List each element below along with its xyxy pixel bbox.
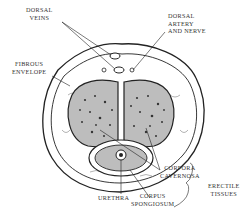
label-erectile-tissues: ERECTILE TISSUES (208, 182, 240, 197)
label-corpora-cavernosa: CORPORA CAVERNOSA (160, 164, 200, 179)
label-dorsal-artery-and-nerve: DORSAL ARTERY AND NERVE (168, 12, 206, 35)
label-urethra: URETHRA (98, 194, 129, 202)
dorsal-artery-right (130, 68, 134, 72)
deep-dorsal-vein (114, 67, 124, 73)
label-corpus-spongiosum: CORPUS SPONGIOSUM (131, 192, 174, 207)
label-dorsal-veins: DORSAL VEINS (26, 6, 53, 21)
dorsal-artery-left (102, 68, 106, 72)
superficial-dorsal-vein (110, 53, 120, 59)
label-fibrous-envelope: FIBROUS ENVELOPE (12, 60, 46, 75)
